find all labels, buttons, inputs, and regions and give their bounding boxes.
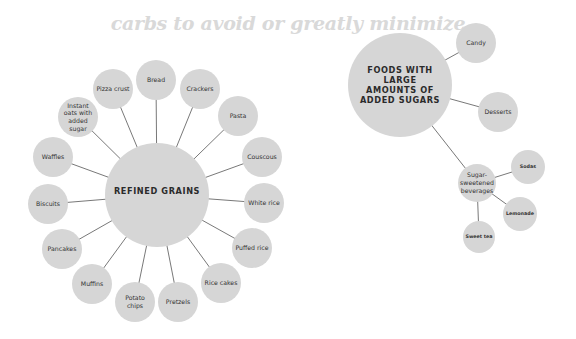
node-label: Desserts [484, 108, 511, 116]
node-crackers: Crackers [180, 69, 220, 109]
node-bread: Bread [136, 60, 176, 100]
node-sweet-tea: Sweet tea [463, 221, 495, 253]
node-muffins: Muffins [72, 264, 112, 304]
node-label: Puffed rice [236, 244, 269, 252]
node-label: Lemonade [506, 211, 534, 217]
node-lemonade: Lemonade [503, 197, 537, 231]
node-label: Instant oats with added sugar [60, 102, 96, 133]
node-label: REFINED GRAINS [114, 186, 200, 196]
node-label: Biscuits [36, 200, 60, 208]
node-label: Pancakes [48, 245, 77, 253]
node-waffles: Waffles [33, 137, 73, 177]
node-instant-oats-with-added-sugar: Instant oats with added sugar [58, 97, 98, 137]
node-label: Crackers [187, 85, 214, 93]
node-label: Candy [466, 39, 486, 47]
node-label: Pasta [230, 112, 247, 120]
node-label: Couscous [247, 153, 277, 161]
node-label: White rice [248, 199, 279, 207]
node-label: Waffles [42, 153, 65, 161]
node-white-rice: White rice [244, 183, 284, 223]
node-label: Pizza crust [96, 85, 129, 93]
node-label: Bread [147, 76, 165, 84]
node-potato-chips: Potato chips [115, 282, 155, 322]
node-rice-cakes: Rice cakes [201, 263, 241, 303]
node-couscous: Couscous [242, 137, 282, 177]
node-label: Potato chips [117, 294, 153, 310]
node-candy: Candy [456, 23, 496, 63]
node-puffed-rice: Puffed rice [232, 228, 272, 268]
node-label: Sweet tea [465, 234, 492, 240]
node-label: Pretzels [166, 298, 190, 306]
node-pizza-crust: Pizza crust [93, 69, 133, 109]
node-label: FOODS WITH LARGE AMOUNTS OF ADDED SUGARS [359, 65, 441, 106]
node-pasta: Pasta [218, 96, 258, 136]
node-label: Sodas [520, 164, 536, 170]
node-sodas: Sodas [511, 150, 545, 184]
node-desserts: Desserts [478, 92, 518, 132]
hub-added-sugars: FOODS WITH LARGE AMOUNTS OF ADDED SUGARS [348, 33, 452, 137]
hub-refined-grains: REFINED GRAINS [105, 143, 209, 247]
node-pancakes: Pancakes [42, 229, 82, 269]
node-biscuits: Biscuits [28, 184, 68, 224]
node-label: Sugar-sweetened beverages [460, 171, 494, 194]
node-sugar-sweetened-beverages: Sugar-sweetened beverages [458, 164, 496, 202]
node-label: Muffins [81, 280, 103, 288]
node-pretzels: Pretzels [158, 282, 198, 322]
node-label: Rice cakes [205, 279, 238, 287]
